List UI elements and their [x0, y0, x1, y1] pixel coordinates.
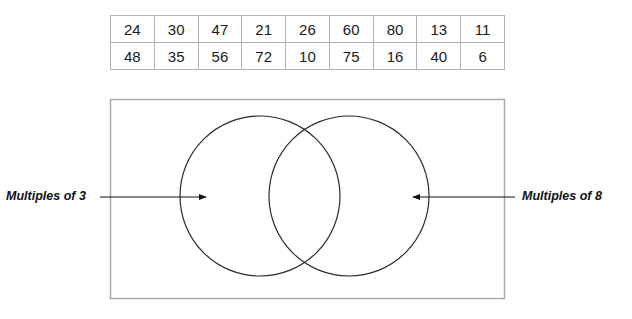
label-multiples-of-3: Multiples of 3: [6, 189, 86, 203]
circle-multiples-of-8: [269, 116, 429, 276]
label-multiples-of-8: Multiples of 8: [522, 189, 602, 203]
venn-diagram: [0, 0, 632, 319]
circle-multiples-of-3: [180, 116, 340, 276]
universal-set-frame: [111, 100, 505, 299]
